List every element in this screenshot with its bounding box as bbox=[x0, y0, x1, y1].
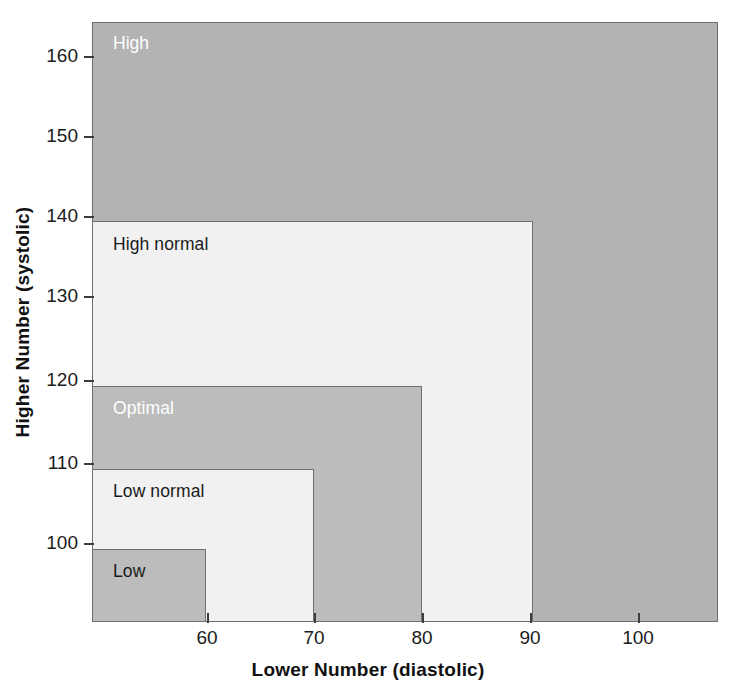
y-tick-label-140: 140 bbox=[34, 206, 78, 225]
x-tick-label-90: 90 bbox=[490, 628, 570, 647]
y-tick-140 bbox=[84, 216, 94, 218]
x-tick-70 bbox=[314, 613, 316, 623]
y-tick-label-130: 130 bbox=[34, 286, 78, 305]
zone-label-low-normal: Low normal bbox=[113, 483, 204, 501]
blood-pressure-category-chart: High High normal Optimal Low normal Low … bbox=[0, 0, 736, 694]
y-tick-110 bbox=[84, 463, 94, 465]
x-tick-label-100: 100 bbox=[598, 628, 678, 647]
x-axis-title: Lower Number (diastolic) bbox=[0, 659, 736, 681]
x-tick-label-70: 70 bbox=[274, 628, 354, 647]
x-tick-90 bbox=[530, 613, 532, 623]
y-tick-label-100: 100 bbox=[34, 533, 78, 552]
y-tick-120 bbox=[84, 380, 94, 382]
zone-label-low: Low bbox=[113, 563, 145, 581]
y-tick-150 bbox=[84, 136, 94, 138]
y-tick-100 bbox=[84, 543, 94, 545]
y-tick-label-110: 110 bbox=[34, 453, 78, 472]
x-tick-80 bbox=[422, 613, 424, 623]
zone-label-high-normal: High normal bbox=[113, 236, 208, 254]
y-tick-label-120: 120 bbox=[34, 370, 78, 389]
x-tick-label-80: 80 bbox=[382, 628, 462, 647]
y-tick-130 bbox=[84, 296, 94, 298]
x-tick-60 bbox=[207, 613, 209, 623]
zone-label-optimal: Optimal bbox=[113, 400, 174, 418]
y-tick-label-150: 150 bbox=[34, 126, 78, 145]
y-tick-160 bbox=[84, 56, 94, 58]
plot-area: High High normal Optimal Low normal Low bbox=[92, 22, 718, 622]
zone-label-high: High bbox=[113, 35, 149, 53]
x-tick-label-60: 60 bbox=[167, 628, 247, 647]
y-axis-title: Higher Number (systolic) bbox=[8, 22, 38, 622]
x-tick-100 bbox=[638, 613, 640, 623]
zone-low: Low bbox=[93, 549, 206, 621]
y-tick-label-160: 160 bbox=[34, 46, 78, 65]
